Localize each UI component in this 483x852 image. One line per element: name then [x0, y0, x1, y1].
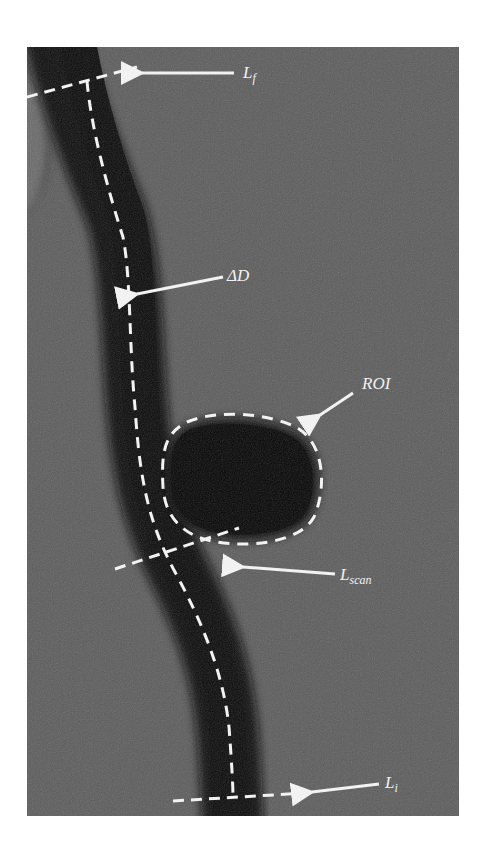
- annotation-layer: [27, 47, 459, 816]
- lf-label: Lf: [243, 64, 256, 84]
- delta-d-label: ΔD: [227, 267, 249, 284]
- li-label: Li: [385, 774, 398, 794]
- lscan-label: Lscan: [340, 566, 371, 586]
- angiogram-figure: Lf ΔD ROI Lscan Li: [27, 47, 459, 816]
- roi-label: ROI: [362, 375, 390, 392]
